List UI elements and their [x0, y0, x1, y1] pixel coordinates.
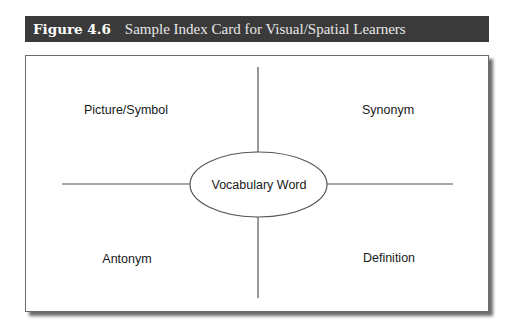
vocabulary-word-label: Vocabulary Word: [212, 178, 307, 192]
quadrant-definition: Definition: [363, 251, 415, 265]
quadrant-picture-symbol: Picture/Symbol: [84, 103, 168, 117]
figure-caption-bar: Figure 4.6 Sample Index Card for Visual/…: [25, 16, 489, 42]
figure-number: Figure 4.6: [33, 21, 111, 37]
figure-title: Sample Index Card for Visual/Spatial Lea…: [125, 21, 406, 38]
quadrant-synonym: Synonym: [362, 103, 414, 117]
quadrant-antonym: Antonym: [102, 252, 151, 266]
